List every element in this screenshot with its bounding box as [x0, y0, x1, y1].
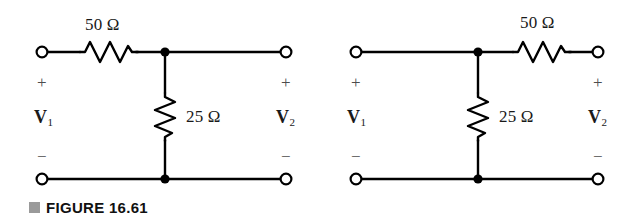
right-circuit-output-voltage-label: V2	[588, 108, 607, 126]
left-circuit-terminal-output-bottom	[281, 174, 292, 185]
left-circuit-input-minus-sign: −	[37, 148, 47, 165]
right-circuit-terminal-input-bottom	[351, 174, 362, 185]
right-circuit-shunt-resistor-symbol	[468, 93, 488, 141]
right-circuit-output-voltage-subscript: 2	[602, 116, 608, 128]
right-circuit-input-minus-sign: −	[351, 148, 361, 165]
right-circuit-terminal-output-bottom	[593, 174, 604, 185]
left-circuit-series-resistor-symbol	[80, 42, 138, 62]
right-circuit-series-resistor-label: 50 Ω	[520, 14, 555, 31]
right-circuit-output-plus-sign: +	[593, 74, 603, 91]
left-circuit-input-voltage-symbol: V	[34, 107, 47, 127]
left-circuit-output-minus-sign: −	[281, 148, 291, 165]
right-circuit-junction-dot-bottom	[473, 174, 482, 183]
left-circuit-terminal-input-top	[37, 47, 48, 58]
right-circuit-input-voltage-subscript: 1	[361, 116, 367, 128]
right-circuit-input-plus-sign: +	[351, 74, 361, 91]
left-circuit-series-resistor-label: 50 Ω	[85, 16, 120, 33]
caption-square-bullet-icon	[29, 202, 40, 213]
right-circuit-input-voltage-symbol: V	[347, 107, 360, 127]
left-circuit-output-voltage-subscript: 2	[290, 116, 296, 128]
left-circuit-output-voltage-symbol: V	[276, 107, 289, 127]
right-circuit-terminal-output-top	[593, 47, 604, 58]
left-circuit-shunt-resistor-label: 25 Ω	[186, 108, 221, 125]
right-circuit-terminal-input-top	[351, 47, 362, 58]
left-circuit-input-voltage-subscript: 1	[48, 116, 54, 128]
left-circuit-shunt-resistor-symbol	[155, 93, 175, 141]
left-circuit-output-plus-sign: +	[281, 74, 291, 91]
right-circuit-shunt-resistor-label: 25 Ω	[499, 108, 534, 125]
left-circuit-terminal-output-top	[281, 47, 292, 58]
left-circuit-output-voltage-label: V2	[276, 108, 295, 126]
left-circuit-input-voltage-label: V1	[34, 108, 53, 126]
right-circuit-series-resistor-symbol	[513, 42, 571, 62]
figure-caption: FIGURE 16.61	[29, 199, 148, 216]
left-circuit-junction-dot-top	[160, 47, 169, 56]
left-circuit-terminal-input-bottom	[37, 174, 48, 185]
caption-text: FIGURE 16.61	[46, 199, 148, 216]
figure-container: 50 Ω 25 Ω + V1 − + V2 − 50 Ω 25 Ω + V1 −…	[0, 0, 634, 222]
right-circuit-output-minus-sign: −	[593, 148, 603, 165]
right-circuit-output-voltage-symbol: V	[588, 107, 601, 127]
right-circuit-junction-dot-top	[473, 47, 482, 56]
right-circuit-input-voltage-label: V1	[347, 108, 366, 126]
left-circuit-input-plus-sign: +	[37, 74, 47, 91]
left-circuit-junction-dot-bottom	[160, 174, 169, 183]
